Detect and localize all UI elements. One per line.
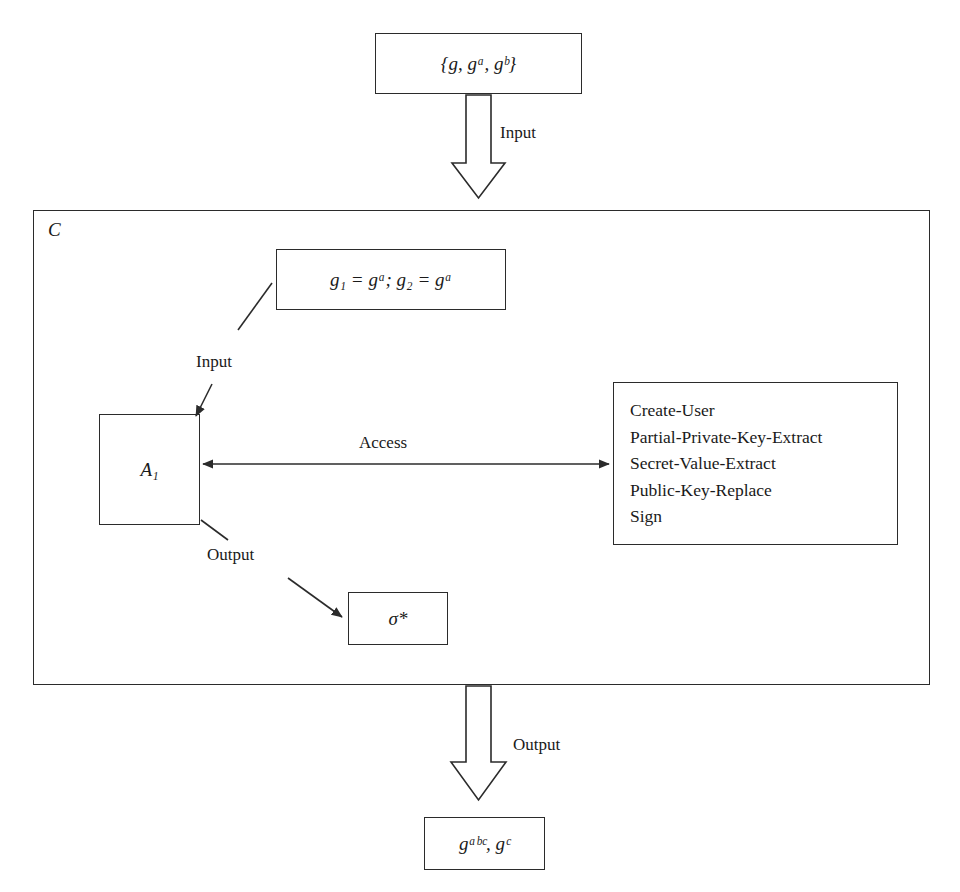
oracle-item-sign: Sign: [630, 503, 822, 530]
oracle-item-create-user: Create-User: [630, 397, 822, 424]
challenger-container-label: C: [48, 219, 61, 241]
block-arrow-output-bot: [451, 686, 506, 800]
oracle-item-public-key-replace: Public-Key-Replace: [630, 477, 822, 504]
edge-label-access: Access: [359, 433, 407, 453]
generators-assignment-box: g₁ = gᵃ; g₂ = gᵃ: [276, 249, 506, 310]
forged-signature-text: σ*: [389, 607, 408, 631]
input-parameters-box: {g, gᵃ, gᵇ}: [375, 33, 582, 94]
adversary-box: A₁: [99, 414, 200, 525]
edge-label-input-top: Input: [500, 123, 536, 143]
edge-label-output-bot: Output: [513, 735, 560, 755]
edge-label-input-mid: Input: [196, 352, 232, 372]
forged-signature-box: σ*: [348, 592, 448, 645]
output-values-text: gᵃᵇᶜ, gᶜ: [459, 832, 510, 856]
generators-assignment-text: g₁ = gᵃ; g₂ = gᵃ: [330, 268, 452, 292]
oracle-query-list-box: Create-User Partial-Private-Key-Extract …: [613, 382, 898, 545]
input-parameters-text: {g, gᵃ, gᵇ}: [441, 52, 516, 76]
adversary-label: A₁: [140, 458, 158, 482]
oracle-query-list: Create-User Partial-Private-Key-Extract …: [630, 397, 822, 530]
block-arrow-input-top: [452, 95, 505, 198]
oracle-item-secret-value-extract: Secret-Value-Extract: [630, 450, 822, 477]
edge-label-output-mid: Output: [207, 545, 254, 565]
diagram-canvas: {g, gᵃ, gᵇ} C g₁ = gᵃ; g₂ = gᵃ A₁ Create…: [0, 0, 960, 892]
oracle-item-partial-private-key-extract: Partial-Private-Key-Extract: [630, 424, 822, 451]
output-values-box: gᵃᵇᶜ, gᶜ: [424, 817, 545, 870]
